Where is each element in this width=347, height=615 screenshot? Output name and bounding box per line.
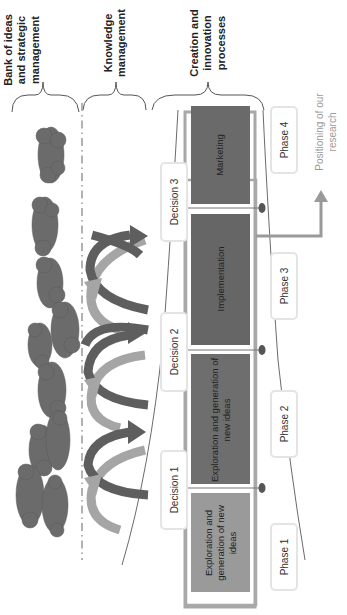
header-creation-innovation: Creation andinnovationprocesses: [183, 0, 233, 93]
activity-1-label: Exploration and generation of new ideas: [201, 494, 241, 593]
phase-3-box: Phase 3: [270, 252, 298, 320]
activity-2-label: Exploration and generation of new ideas: [201, 355, 241, 485]
decision-3-box: Decision 3: [160, 162, 188, 242]
header-bank-of-ideas: Bank of ideasand strategicmanagement: [0, 0, 47, 100]
header-knowledge-management: Knowledgemanagement: [97, 0, 133, 88]
positioning-arrow: [256, 200, 321, 236]
decision-1-box: Decision 1: [160, 450, 188, 530]
activity-3-label: Implementation: [211, 214, 231, 344]
positioning-annotation: Positioning of ourresearch: [312, 82, 340, 182]
cloud-cluster: [16, 127, 80, 537]
innovation-process-diagram: Bank of ideasand strategicmanagement Kno…: [0, 0, 347, 615]
phase-4-box: Phase 4: [270, 106, 298, 174]
activity-4-label: Marketing: [210, 106, 230, 204]
phase-1-box: Phase 1: [270, 523, 298, 591]
funnel-curve-lower: [263, 110, 305, 560]
decision-2-box: Decision 2: [160, 312, 188, 392]
phase-2-box: Phase 2: [270, 390, 298, 458]
